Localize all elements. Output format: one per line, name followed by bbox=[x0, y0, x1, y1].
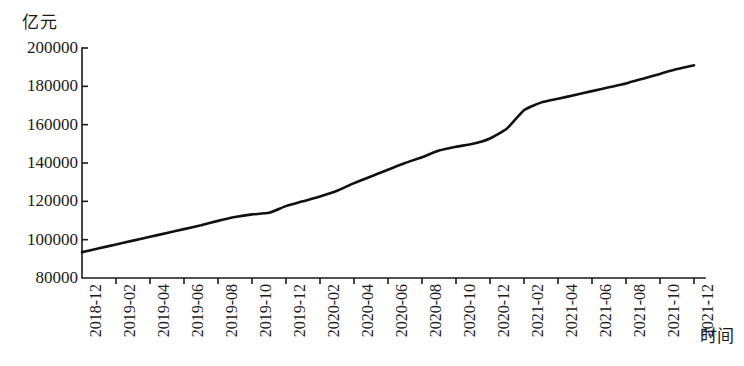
axis-lines bbox=[82, 48, 705, 278]
plot-area bbox=[0, 0, 744, 366]
axis-tick-marks bbox=[82, 48, 694, 284]
line-chart: 亿元 2000001800001600001400001200001000008… bbox=[0, 0, 744, 366]
data-series-line bbox=[82, 65, 694, 252]
